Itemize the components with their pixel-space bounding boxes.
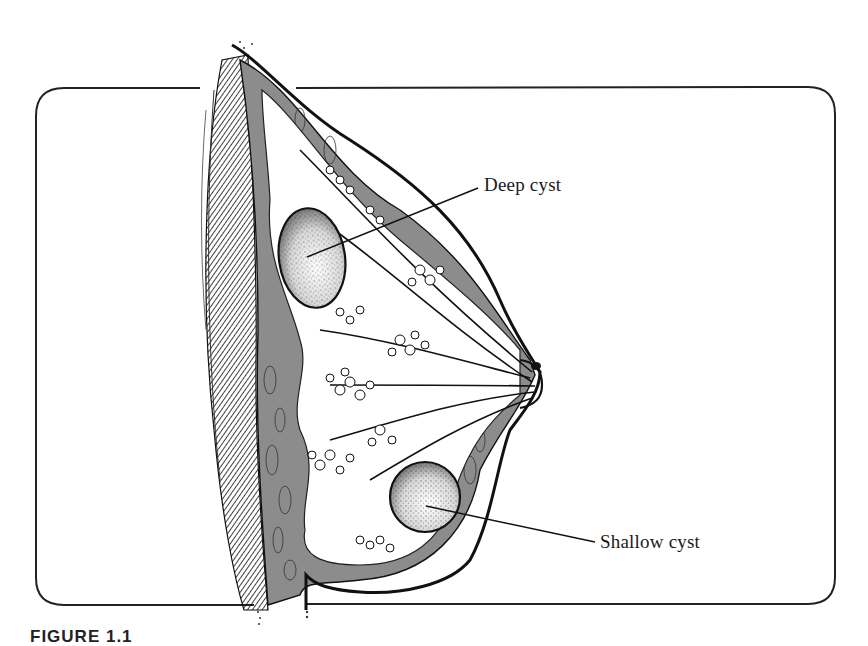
figure-caption: FIGURE 1.1 bbox=[30, 627, 133, 646]
deep-cyst-label: Deep cyst bbox=[484, 174, 561, 196]
shallow-cyst-label: Shallow cyst bbox=[600, 531, 700, 553]
shallow-cyst bbox=[390, 462, 460, 532]
